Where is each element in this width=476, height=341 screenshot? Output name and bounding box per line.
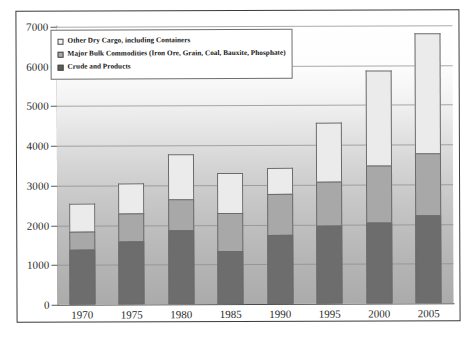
y-axis-tick-mark [50, 27, 56, 28]
bar-segment-crude-and-products [168, 230, 194, 304]
stacked-bar [267, 168, 294, 304]
bar-segment-major-bulk [69, 232, 95, 250]
bar-segment-crude-and-products [267, 235, 293, 304]
y-axis-tick-label: 7000 [16, 22, 48, 33]
bar-segment-major-bulk [118, 213, 144, 241]
bar-segment-major-bulk [217, 213, 243, 251]
stacked-bar [415, 33, 442, 303]
bar-segment-major-bulk [415, 153, 441, 215]
y-axis-tick-mark [51, 225, 57, 226]
legend-item: Other Dry Cargo, including Containers [57, 34, 285, 48]
x-axis-tick-label: 1975 [107, 309, 157, 320]
stacked-bar [168, 154, 195, 304]
y-axis-tick-label: 4000 [17, 141, 49, 152]
stacked-bar [365, 70, 392, 303]
x-axis-tick-label: 1995 [305, 309, 355, 320]
legend-item: Crude and Products [58, 60, 286, 74]
legend-item-label: Other Dry Cargo, including Containers [68, 37, 191, 45]
bar-segment-other-dry-cargo [69, 204, 95, 232]
y-axis-tick-mark [51, 186, 57, 187]
bar-segment-other-dry-cargo [168, 154, 194, 199]
chart-legend: Other Dry Cargo, including ContainersMaj… [50, 29, 292, 80]
y-axis-ticks: 01000200030004000500060007000 [16, 10, 458, 12]
y-axis-tick-mark [51, 265, 57, 266]
legend-item: Major Bulk Commodities (Iron Ore, Grain,… [58, 47, 286, 61]
chart-frame: 01000200030004000500060007000 1970197519… [15, 9, 460, 323]
x-axis-tick-label: 2005 [404, 308, 454, 319]
y-axis-tick-mark [52, 305, 58, 306]
x-axis-tick-label: 1985 [206, 309, 256, 320]
x-axis-tick-label: 2000 [354, 308, 404, 319]
x-axis-tick-label: 1990 [255, 309, 305, 320]
y-axis-tick-label: 2000 [17, 220, 49, 231]
bar-segment-major-bulk [267, 194, 293, 235]
bar-segment-crude-and-products [316, 226, 342, 304]
y-axis-tick-label: 3000 [17, 181, 49, 192]
bar-segment-other-dry-cargo [316, 123, 342, 182]
stacked-bar [69, 204, 95, 305]
y-axis-tick-mark [51, 106, 57, 107]
stacked-bar [118, 183, 144, 304]
x-axis-tick-label: 1970 [57, 310, 107, 321]
x-axis-ticks: 19701975198019851990199520002005 [16, 10, 458, 12]
stacked-bar [217, 173, 244, 304]
bar-segment-major-bulk [316, 182, 342, 226]
bar-segment-major-bulk [168, 199, 194, 230]
bar-segment-crude-and-products [366, 222, 392, 303]
bar-segment-other-dry-cargo [415, 33, 441, 153]
bar-segment-other-dry-cargo [118, 183, 144, 213]
bar-segment-crude-and-products [218, 251, 244, 304]
bar-segment-crude-and-products [69, 249, 95, 304]
bar-segment-other-dry-cargo [267, 168, 293, 194]
y-axis-tick-mark [51, 146, 57, 147]
legend-swatch-icon [58, 64, 64, 70]
legend-item-label: Major Bulk Commodities (Iron Ore, Grain,… [68, 50, 286, 58]
bar-segment-other-dry-cargo [365, 70, 391, 165]
bar-segment-crude-and-products [119, 241, 145, 304]
bar-segment-other-dry-cargo [217, 173, 243, 213]
legend-swatch-icon [58, 51, 64, 57]
bar-segment-major-bulk [366, 165, 392, 222]
y-axis-tick-label: 0 [18, 300, 50, 311]
y-axis-tick-label: 5000 [17, 101, 49, 112]
y-axis-tick-label: 1000 [17, 260, 49, 271]
x-axis-tick-label: 1980 [156, 309, 206, 320]
legend-item-label: Crude and Products [68, 63, 131, 70]
stacked-bar [316, 123, 343, 304]
bar-segment-crude-and-products [415, 215, 441, 303]
y-axis-tick-label: 6000 [17, 61, 49, 72]
legend-swatch-icon [58, 38, 64, 44]
